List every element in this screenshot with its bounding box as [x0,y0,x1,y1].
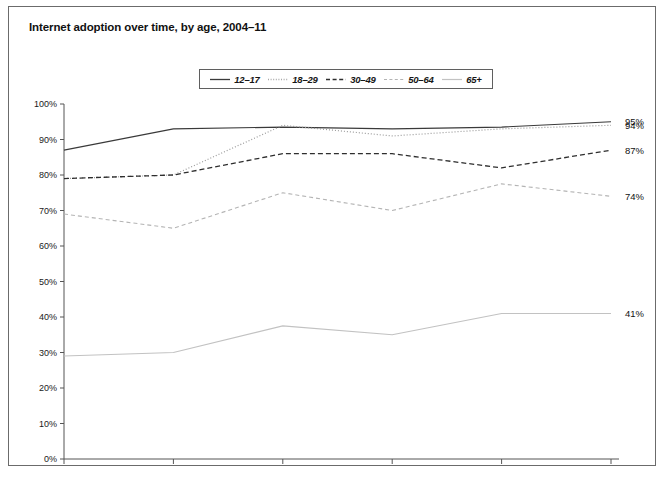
y-tick-label: 40% [39,312,57,322]
x-tick-label: July-11 [597,466,625,467]
series-end-label: 94% [625,120,645,131]
y-tick-label: 90% [39,135,57,145]
y-tick-label: 0% [44,454,57,464]
x-tick-label: Feb-08 [378,466,407,467]
series-end-label: 74% [625,191,645,202]
series-end-labels: 95%94%87%74%41% [625,116,645,319]
line-chart-svg: 0%10%20%30%40%50%60%70%80%90%100% Nov 04… [9,7,657,467]
series-end-label: 87% [625,145,645,156]
y-tick-label: 60% [39,241,57,251]
series-line-30-49 [64,150,611,178]
chart-page: Internet adoption over time, by age, 200… [0,0,663,479]
y-tick-label: 50% [39,277,57,287]
x-axis: Nov 04Nov 06Nov-07Feb-08Sep-09July-11 [50,459,625,467]
chart-frame: Internet adoption over time, by age, 200… [8,6,656,466]
series-lines [64,122,611,356]
series-line-50-64 [64,184,611,228]
y-tick-label: 100% [34,99,57,109]
series-line-12-17 [64,122,611,150]
y-tick-label: 30% [39,348,57,358]
x-tick-label: Nov 04 [50,466,79,467]
y-tick-label: 20% [39,383,57,393]
y-tick-label: 10% [39,419,57,429]
y-axis: 0%10%20%30%40%50%60%70%80%90%100% [34,99,64,464]
x-tick-label: Nov-07 [268,466,297,467]
series-line-18-29 [64,125,611,178]
x-tick-label: Nov 06 [159,466,188,467]
plot-area: 0%10%20%30%40%50%60%70%80%90%100% Nov 04… [9,7,657,467]
series-line-65 [64,313,611,356]
x-tick-label: Sep-09 [487,466,516,467]
y-tick-label: 80% [39,170,57,180]
y-tick-label: 70% [39,206,57,216]
series-end-label: 41% [625,308,645,319]
